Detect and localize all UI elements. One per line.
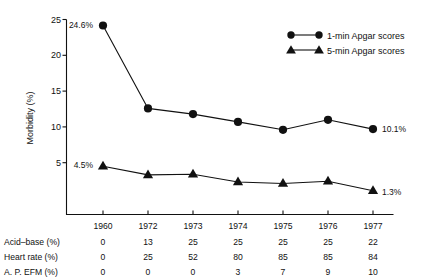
legend-item-5-min: 5-min Apgar scores: [286, 45, 405, 55]
table-cell: 22: [368, 237, 378, 247]
y-tick-label-5: 5: [56, 158, 61, 168]
table-header-cell: 1972: [138, 221, 157, 231]
data-point: [188, 169, 198, 178]
legend-triangle-marker-icon: [314, 45, 324, 53]
table-header-cell: 1974: [228, 221, 247, 231]
table-row: A. P. EFM (%) 0 0 0 3 7 9 10: [4, 267, 378, 277]
legend-circle-marker-icon: [315, 31, 322, 38]
table-cell: 25: [323, 237, 333, 247]
table-cell: 52: [188, 252, 198, 262]
table-cell: 7: [281, 267, 286, 277]
table-header-cell: 1973: [183, 221, 202, 231]
table-cell: 0: [101, 252, 106, 262]
table-cell: 25: [278, 237, 288, 247]
y-tick-label-25: 25: [51, 15, 61, 25]
legend-label-1-min: 1-min Apgar scores: [327, 31, 405, 41]
table-cell: 85: [278, 252, 288, 262]
table-cell: 13: [143, 237, 153, 247]
annotation-first-1min: 24.6%: [69, 20, 94, 30]
table-cell: 10: [368, 267, 378, 277]
annotation-last-1min: 10.1%: [382, 124, 407, 134]
y-tick-label-10: 10: [51, 122, 61, 132]
data-point: [99, 21, 107, 29]
y-tick-label-20: 20: [51, 50, 61, 60]
legend: 1-min Apgar scores 5-min Apgar scores: [286, 31, 405, 56]
y-axis-title: Morbidity (%): [25, 91, 35, 144]
legend-triangle-marker-icon: [286, 45, 296, 53]
table-row-label: Heart rate (%): [4, 252, 58, 262]
data-point: [234, 118, 242, 126]
data-point: [98, 161, 108, 170]
table-header-cell: 1960: [93, 221, 112, 231]
data-point: [278, 178, 288, 187]
annotation-last-5min: 1.3%: [382, 187, 402, 197]
series-markers-5-min: [98, 161, 378, 194]
data-point: [324, 116, 332, 124]
table-row-label: A. P. EFM (%): [4, 267, 58, 277]
table-cell: 0: [101, 237, 106, 247]
data-point: [189, 110, 197, 118]
table-header-cell: 1976: [318, 221, 337, 231]
table-cell: 25: [188, 237, 198, 247]
apgar-morbidity-figure: Morbidity (%) 25 20 15 10 5: [0, 0, 429, 279]
table-cell: 25: [143, 252, 153, 262]
data-point: [144, 104, 152, 112]
annotation-first-5min: 4.5%: [74, 160, 94, 170]
legend-circle-marker-icon: [287, 31, 294, 38]
x-tick-marks: [103, 211, 373, 215]
data-table: 1960 1972 1973 1974 1975 1976 1977 Acid–…: [4, 221, 383, 277]
table-cell: 3: [236, 267, 241, 277]
table-header-cell: 1975: [273, 221, 292, 231]
chart-svg: Morbidity (%) 25 20 15 10 5: [0, 0, 429, 279]
table-cell: 80: [233, 252, 243, 262]
legend-item-1-min: 1-min Apgar scores: [287, 31, 405, 41]
data-point: [369, 125, 377, 133]
table-row-label: Acid–base (%): [4, 237, 60, 247]
table-cell: 0: [191, 267, 196, 277]
table-row: Heart rate (%) 0 25 52 80 85 85 84: [4, 252, 378, 262]
y-tick-label-15: 15: [51, 86, 61, 96]
table-cell: 84: [368, 252, 378, 262]
data-point: [279, 126, 287, 134]
legend-label-5-min: 5-min Apgar scores: [327, 46, 405, 56]
table-cell: 9: [326, 267, 331, 277]
y-tick-marks: [63, 20, 67, 163]
series-line-1-min: [103, 26, 373, 130]
table-header-row: 1960 1972 1973 1974 1975 1976 1977: [93, 221, 382, 231]
data-point: [323, 176, 333, 185]
table-cell: 0: [146, 267, 151, 277]
table-row: Acid–base (%) 0 13 25 25 25 25 22: [4, 237, 378, 247]
table-header-cell: 1977: [363, 221, 382, 231]
table-cell: 25: [233, 237, 243, 247]
table-cell: 0: [101, 267, 106, 277]
table-cell: 85: [323, 252, 333, 262]
